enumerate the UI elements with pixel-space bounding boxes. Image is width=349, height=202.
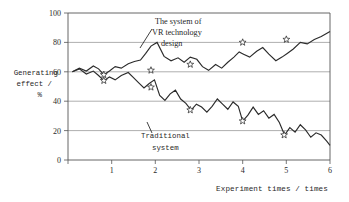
x-tick-label-2: 2: [153, 166, 157, 175]
x-tick-label-6: 6: [328, 166, 332, 175]
x-tick-label-5: 5: [284, 166, 288, 175]
x-axis-title: Experiment times / times: [216, 185, 328, 193]
y-tick-label-0: 0: [57, 156, 61, 165]
vr-annotation-line-3: design: [161, 39, 182, 48]
y-tick-label-40: 40: [53, 97, 61, 106]
line-chart: 100 80 60 40 20 0 1 2 3 4 5 6 G: [0, 0, 349, 202]
traditional-annotation-line-1: Traditional: [141, 132, 190, 140]
y-tick-label-80: 80: [53, 38, 61, 47]
vr-annotation-line-1: The system of: [155, 17, 202, 26]
y-tick-label-20: 20: [53, 127, 61, 136]
y-axis-title-line-2: effect /: [17, 80, 53, 88]
chart-container: 100 80 60 40 20 0 1 2 3 4 5 6 G: [0, 0, 349, 202]
x-tick-label-3: 3: [197, 166, 201, 175]
x-tick-label-1: 1: [110, 166, 114, 175]
traditional-annotation-line-2: system: [152, 144, 179, 152]
y-axis-title-line-1: Generating: [14, 69, 58, 77]
y-axis-title-line-3: %: [38, 91, 43, 99]
vr-annotation-line-2: VR technology: [152, 28, 203, 37]
x-tick-label-4: 4: [241, 166, 245, 175]
y-tick-label-100: 100: [49, 9, 61, 18]
